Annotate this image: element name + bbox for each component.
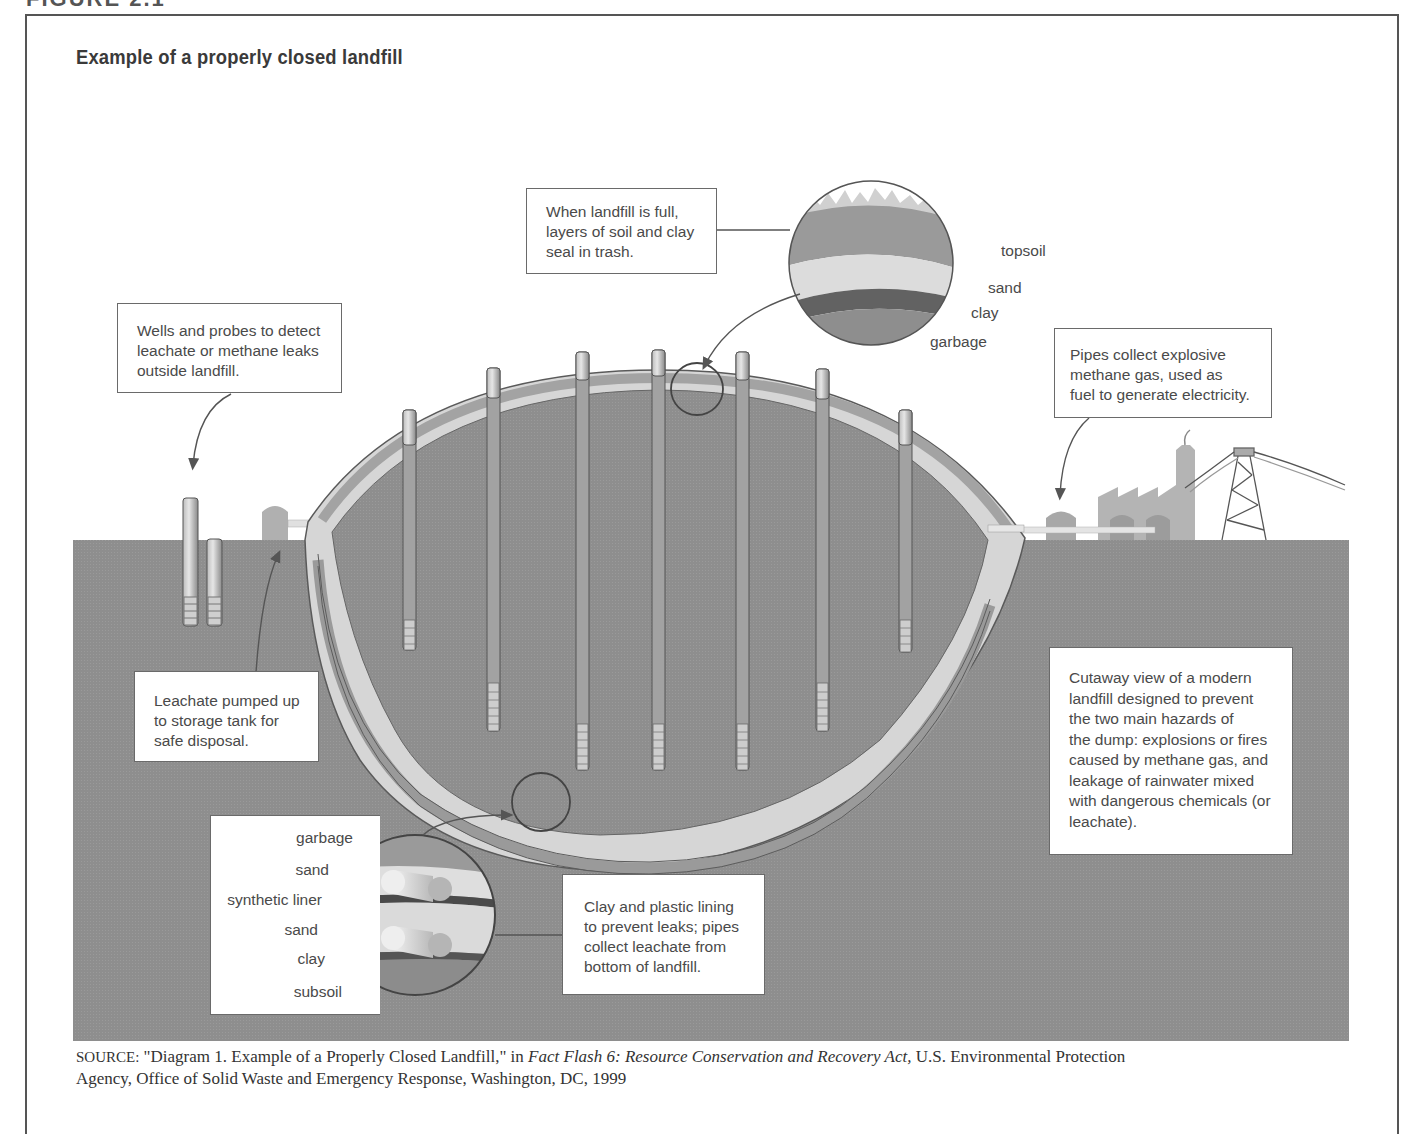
transmission-tower [1185,448,1345,540]
callout-lining: Clay and plastic lining to prevent leaks… [562,874,765,995]
top-label-topsoil: topsoil [1001,242,1046,260]
source-citation: SOURCE: "Diagram 1. Example of a Properl… [76,1046,1346,1090]
callout-wells-text: Wells and probes to detect leachate or m… [137,321,341,381]
source-quote: "Diagram 1. Example of a Properly Closed… [139,1047,528,1066]
source-rest-line2: Agency, Office of Solid Waste and Emerge… [76,1069,626,1088]
callout-cutaway: Cutaway view of a modern landfill design… [1049,647,1293,855]
source-publication: Fact Flash 6: Resource Conservation and … [528,1047,911,1066]
callout-wells: Wells and probes to detect leachate or m… [117,303,342,393]
bottom-label-sand-lower: sand [220,921,318,939]
bottom-label-synthetic-liner: synthetic liner [212,891,322,909]
callout-lining-text: Clay and plastic lining to prevent leaks… [584,897,764,977]
callout-cutaway-text: Cutaway view of a modern landfill design… [1069,668,1292,832]
callout-top-seal: When landfill is full, layers of soil an… [526,188,717,274]
bottom-label-subsoil: subsoil [220,983,342,1001]
source-rest-line1: U.S. Environmental Protection [911,1047,1125,1066]
callout-leachate-text: Leachate pumped up to storage tank for s… [154,691,318,751]
callout-methane-text: Pipes collect explosive methane gas, use… [1070,345,1271,405]
top-label-garbage: garbage [930,333,987,351]
callout-leachate: Leachate pumped up to storage tank for s… [134,671,319,762]
callout-top-seal-text: When landfill is full, layers of soil an… [546,202,716,262]
top-label-sand: sand [988,279,1022,297]
bottom-label-sand-upper: sand [220,861,329,879]
callout-methane: Pipes collect explosive methane gas, use… [1054,328,1272,418]
top-label-clay: clay [971,304,999,322]
power-plant [1020,430,1195,540]
bottom-label-clay: clay [220,950,325,968]
source-prefix: SOURCE: [76,1049,139,1065]
bottom-label-garbage: garbage [220,829,353,847]
